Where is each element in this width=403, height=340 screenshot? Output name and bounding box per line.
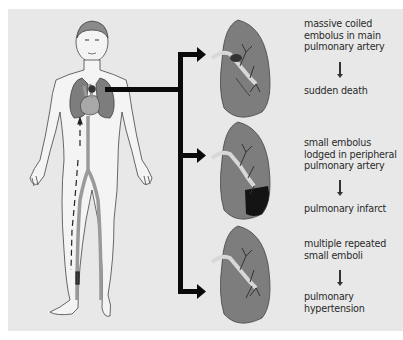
infarct-region: [245, 186, 269, 216]
cause-line: small emboli: [304, 250, 386, 262]
outcome-1: sudden death: [304, 85, 368, 97]
embolus-in-heart: [89, 86, 96, 93]
cause-3: multiple repeated small emboli: [304, 238, 386, 261]
cause-line: pulmonary artery: [304, 41, 385, 53]
outcome-line: sudden death: [304, 85, 368, 97]
cause-line: pulmonary artery: [304, 160, 397, 172]
outcome-line: pulmonary: [304, 291, 365, 303]
outcome-line: hypertension: [304, 303, 365, 315]
lung-2: [212, 122, 270, 219]
arrow-trunk-vertical: [178, 52, 183, 294]
outcome-2: pulmonary infarct: [304, 203, 386, 215]
cause-2: small embolus lodged in peripheral pulmo…: [304, 137, 397, 172]
down-arrow-icon: [339, 180, 341, 194]
cause-line: small embolus: [304, 137, 397, 149]
human-figure: [30, 21, 152, 316]
saddle-embolus: [230, 54, 242, 62]
cause-line: embolus in main: [304, 30, 385, 42]
cause-line: massive coiled: [304, 18, 385, 30]
cause-line: lodged in peripheral: [304, 149, 397, 161]
cause-line: multiple repeated: [304, 238, 386, 250]
down-arrow-icon: [339, 62, 341, 76]
arrow-head-1: [197, 47, 206, 62]
arrow-head-2: [197, 148, 206, 163]
arrow-head-3: [197, 284, 206, 299]
arrow-stem-horizontal: [105, 87, 180, 92]
outcome-line: pulmonary infarct: [304, 203, 386, 215]
lung-3: [212, 226, 270, 323]
down-arrow-icon: [339, 270, 341, 284]
cause-1: massive coiled embolus in main pulmonary…: [304, 18, 385, 53]
lung-1: [212, 20, 270, 117]
outcome-3: pulmonary hypertension: [304, 291, 365, 314]
